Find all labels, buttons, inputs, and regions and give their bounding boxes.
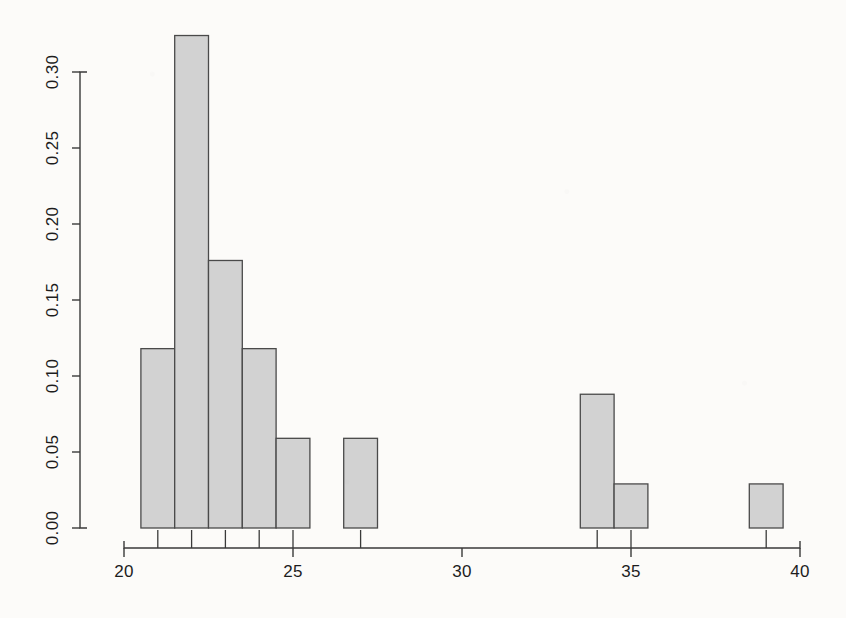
chart-canvas: 0.000.050.100.150.200.250.30 2025303540 bbox=[0, 0, 846, 618]
y-axis bbox=[72, 72, 87, 528]
x-axis-tick-labels: 2025303540 bbox=[114, 562, 810, 581]
histogram-plot: 0.000.050.100.150.200.250.30 2025303540 bbox=[0, 0, 846, 618]
y-axis-line bbox=[80, 72, 87, 528]
histogram-bar bbox=[175, 36, 209, 528]
y-axis-tick-label: 0.15 bbox=[43, 283, 62, 317]
x-axis-tick-label: 30 bbox=[452, 562, 472, 581]
y-axis-tick-labels: 0.000.050.100.150.200.250.30 bbox=[43, 55, 62, 545]
x-axis-tick-label: 25 bbox=[283, 562, 303, 581]
histogram-bar bbox=[276, 438, 310, 528]
histogram-bar bbox=[614, 484, 648, 528]
rug-ticks-group bbox=[158, 530, 766, 548]
y-axis-tick-label: 0.10 bbox=[43, 359, 62, 393]
y-axis-tick-label: 0.25 bbox=[43, 131, 62, 165]
bars-group bbox=[141, 36, 783, 528]
y-axis-tick-label: 0.20 bbox=[43, 207, 62, 241]
y-axis-tick-label: 0.30 bbox=[43, 55, 62, 89]
x-axis-tick-label: 35 bbox=[621, 562, 641, 581]
histogram-bar bbox=[141, 349, 175, 528]
y-axis-tick-label: 0.05 bbox=[43, 435, 62, 469]
histogram-bar bbox=[242, 349, 276, 528]
x-axis-tick-label: 20 bbox=[114, 562, 134, 581]
histogram-bar bbox=[209, 260, 243, 528]
x-axis-tick-label: 40 bbox=[790, 562, 810, 581]
y-axis-tick-label: 0.00 bbox=[43, 511, 62, 545]
histogram-bar bbox=[580, 394, 614, 528]
histogram-bar bbox=[749, 484, 783, 528]
histogram-bar bbox=[344, 438, 378, 528]
